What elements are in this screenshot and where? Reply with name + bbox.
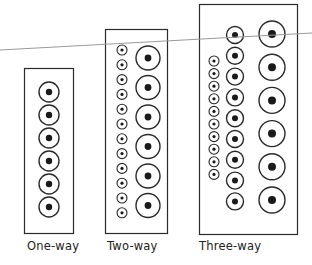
socket-medium-icon	[227, 131, 244, 148]
socket-large-icon	[259, 154, 285, 180]
socket-large-icon	[136, 46, 160, 70]
socket-small-icon	[209, 157, 219, 167]
socket-medium-icon	[39, 151, 59, 171]
socket-small-icon	[117, 104, 127, 114]
socket-small-icon	[209, 69, 219, 79]
panel-three-way	[200, 5, 298, 235]
panel-two-way	[106, 30, 168, 234]
label-three-way: Three-way	[199, 239, 261, 253]
socket-small-icon	[117, 75, 127, 85]
socket-small-icon	[117, 119, 127, 129]
socket-small-icon	[209, 132, 219, 142]
socket-medium-icon	[227, 27, 244, 44]
socket-small-icon	[117, 163, 127, 173]
socket-small-icon	[117, 149, 127, 159]
socket-small-icon	[209, 169, 219, 179]
socket-medium-icon	[39, 82, 59, 102]
socket-medium-icon	[227, 151, 244, 168]
socket-panel-diagram: One-way Two-way Three-way	[0, 0, 312, 265]
socket-large-icon	[259, 187, 285, 213]
socket-medium-icon	[39, 105, 59, 125]
socket-medium-icon	[39, 197, 59, 217]
socket-large-icon	[136, 164, 160, 188]
socket-large-icon	[136, 135, 160, 159]
socket-small-icon	[209, 81, 219, 91]
socket-large-icon	[259, 87, 285, 113]
socket-small-icon	[209, 106, 219, 116]
socket-medium-icon	[227, 172, 244, 189]
socket-medium-icon	[227, 110, 244, 127]
socket-small-icon	[209, 56, 219, 66]
panel-one-way	[25, 69, 74, 234]
socket-medium-icon	[227, 89, 244, 106]
socket-large-icon	[259, 54, 285, 80]
socket-small-icon	[117, 178, 127, 188]
socket-small-icon	[209, 119, 219, 129]
socket-medium-icon	[227, 47, 244, 64]
socket-medium-icon	[227, 68, 244, 85]
socket-small-icon	[117, 208, 127, 218]
socket-large-icon	[259, 21, 285, 47]
diagram-canvas	[0, 0, 312, 265]
socket-medium-icon	[39, 174, 59, 194]
socket-small-icon	[117, 89, 127, 99]
socket-small-icon	[117, 193, 127, 203]
socket-small-icon	[117, 45, 127, 55]
socket-large-icon	[259, 121, 285, 147]
socket-large-icon	[136, 76, 160, 100]
socket-small-icon	[117, 134, 127, 144]
socket-small-icon	[209, 144, 219, 154]
socket-medium-icon	[39, 128, 59, 148]
label-one-way: One-way	[27, 239, 79, 253]
socket-small-icon	[117, 60, 127, 70]
socket-large-icon	[136, 105, 160, 129]
socket-medium-icon	[227, 193, 244, 210]
label-two-way: Two-way	[107, 239, 158, 253]
socket-small-icon	[209, 94, 219, 104]
socket-large-icon	[136, 194, 160, 218]
